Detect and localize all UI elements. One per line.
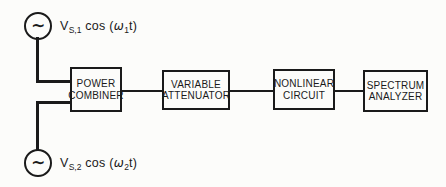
source-1-omega: ω xyxy=(114,19,124,33)
source-2-label: VS,2 cos (ω2t) xyxy=(60,156,137,170)
block-label-line: VARIABLE xyxy=(171,79,221,91)
source-1-cos-text: cos ( xyxy=(81,19,113,33)
block-label-line: COMBINER xyxy=(68,90,124,102)
ac-source-2: ∼ xyxy=(24,149,52,177)
wire-source1-to-combiner xyxy=(36,80,71,83)
wire-nonlinear-to-analyzer xyxy=(333,90,365,92)
source-2-voltage-var: V xyxy=(60,156,69,170)
block-diagram: ∼ VS,1 cos (ω1t) ∼ VS,2 cos (ω2t) POWER … xyxy=(0,0,446,187)
source-1-voltage-var: V xyxy=(60,19,69,33)
source-2-omega: ω xyxy=(114,156,124,170)
block-label-line: CIRCUIT xyxy=(283,90,325,102)
source-1-label: VS,1 cos (ω1t) xyxy=(60,19,137,33)
wire-source2-vertical xyxy=(36,101,39,151)
source-1-label-tail: t) xyxy=(129,19,137,33)
wire-attenuator-to-nonlinear xyxy=(228,90,275,92)
block-label-line: POWER xyxy=(77,78,116,90)
block-label-line: ANALYZER xyxy=(369,91,423,103)
wire-source1-vertical xyxy=(36,37,39,83)
block-variable-attenuator: VARIABLE ATTENUATOR xyxy=(162,70,230,110)
ac-source-1: ∼ xyxy=(24,12,52,40)
source-2-label-tail: t) xyxy=(129,156,137,170)
block-label-line: ATTENUATOR xyxy=(162,90,230,102)
source-1-voltage-subscript: S,1 xyxy=(69,25,82,35)
source-2-cos-text: cos ( xyxy=(81,156,113,170)
block-label-line: SPECTRUM xyxy=(367,80,425,92)
wire-source2-to-combiner xyxy=(36,101,71,104)
sine-wave-icon: ∼ xyxy=(31,17,45,34)
block-spectrum-analyzer: SPECTRUM ANALYZER xyxy=(363,70,428,112)
wire-combiner-to-attenuator xyxy=(120,90,164,92)
source-2-voltage-subscript: S,2 xyxy=(69,162,82,172)
block-nonlinear-circuit: NONLINEAR CIRCUIT xyxy=(273,69,335,110)
block-power-combiner: POWER COMBINER xyxy=(70,67,122,112)
block-label-line: NONLINEAR xyxy=(274,78,334,90)
sine-wave-icon: ∼ xyxy=(31,154,45,171)
